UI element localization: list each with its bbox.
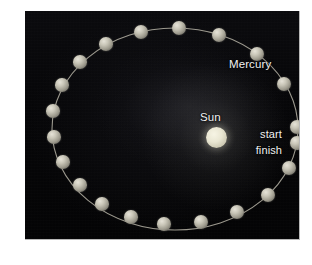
- planet-marker-finish: [290, 136, 300, 150]
- figure-root: Mercury Sun start finish: [0, 0, 312, 265]
- planet-marker: [261, 188, 275, 202]
- planet-marker: [55, 78, 69, 92]
- label-finish: finish: [256, 144, 282, 156]
- planet-marker: [99, 37, 113, 51]
- label-start: start: [260, 128, 282, 140]
- planet-marker: [95, 197, 109, 211]
- planet-marker: [157, 217, 171, 231]
- planet-marker: [46, 104, 60, 118]
- sun-body: [206, 127, 227, 148]
- planet-marker-start: [290, 120, 300, 134]
- planet-marker: [194, 215, 208, 229]
- planet-marker: [134, 25, 148, 39]
- space-background-panel: Mercury Sun start finish: [25, 11, 300, 240]
- label-mercury: Mercury: [229, 58, 271, 70]
- planet-marker: [73, 55, 87, 69]
- planet-marker: [230, 205, 244, 219]
- orbit-path-svg: [25, 11, 300, 240]
- planet-marker: [47, 130, 61, 144]
- label-sun: Sun: [200, 111, 221, 123]
- planet-marker: [124, 210, 138, 224]
- planet-marker: [56, 155, 70, 169]
- planet-marker: [73, 178, 87, 192]
- planet-marker: [282, 161, 296, 175]
